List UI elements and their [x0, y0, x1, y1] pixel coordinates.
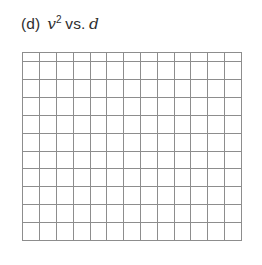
- grid-cell: [40, 53, 57, 62]
- grid-cell: [157, 62, 174, 80]
- grid-cell: [57, 133, 74, 151]
- grid-cell: [191, 53, 208, 62]
- grid-cell: [124, 62, 141, 80]
- grid-row: [23, 53, 242, 62]
- grid-cell: [40, 223, 57, 241]
- grid-cell: [191, 223, 208, 241]
- grid-cell: [90, 205, 107, 223]
- grid-cell: [73, 169, 90, 187]
- grid-cell: [90, 53, 107, 62]
- grid-cell: [174, 98, 191, 116]
- grid-cell: [23, 169, 40, 187]
- figure-label: (d): [21, 15, 40, 32]
- grid-cell: [191, 169, 208, 187]
- grid-cell: [57, 187, 74, 205]
- grid-cell: [107, 223, 124, 241]
- grid-row: [23, 80, 242, 98]
- relation-label: vs.: [65, 15, 85, 32]
- grid-cell: [40, 98, 57, 116]
- grid-cell: [191, 80, 208, 98]
- grid-cell: [174, 115, 191, 133]
- grid-cell: [174, 151, 191, 169]
- grid-cell: [107, 169, 124, 187]
- grid-cell: [124, 98, 141, 116]
- grid-row: [23, 133, 242, 151]
- grid-cell: [23, 205, 40, 223]
- grid-cell: [174, 205, 191, 223]
- grid-cell: [90, 133, 107, 151]
- grid-cell: [124, 187, 141, 205]
- grid-cell: [141, 169, 158, 187]
- grid-cell: [225, 151, 242, 169]
- grid-cell: [40, 151, 57, 169]
- grid-cell: [73, 151, 90, 169]
- figure-caption: (d)v2vs.d: [21, 13, 99, 35]
- grid-cell: [225, 223, 242, 241]
- grid-cell: [23, 133, 40, 151]
- x-axis-variable: d: [89, 15, 99, 33]
- grid-cell: [57, 169, 74, 187]
- grid-cell: [124, 53, 141, 62]
- grid-cell: [157, 53, 174, 62]
- grid-cell: [208, 98, 225, 116]
- grid-row: [23, 151, 242, 169]
- grid-cell: [191, 205, 208, 223]
- grid-cell: [191, 187, 208, 205]
- grid-cell: [141, 98, 158, 116]
- grid-cell: [191, 115, 208, 133]
- grid-cell: [90, 187, 107, 205]
- grid-cell: [225, 98, 242, 116]
- grid-cell: [208, 205, 225, 223]
- grid-cell: [124, 169, 141, 187]
- figure-panel: (d)v2vs.d: [0, 0, 262, 265]
- grid-cell: [157, 80, 174, 98]
- grid-cell: [208, 62, 225, 80]
- grid-cell: [141, 80, 158, 98]
- grid-cell: [57, 98, 74, 116]
- grid-cell: [174, 53, 191, 62]
- grid-cell: [174, 133, 191, 151]
- grid-cell: [90, 223, 107, 241]
- grid-cell: [23, 187, 40, 205]
- grid-cell: [225, 115, 242, 133]
- grid-cell: [141, 223, 158, 241]
- grid-cell: [191, 151, 208, 169]
- grid-cell: [40, 80, 57, 98]
- grid-cell: [40, 62, 57, 80]
- grid-cell: [107, 80, 124, 98]
- grid-cell: [90, 98, 107, 116]
- grid-cell: [124, 133, 141, 151]
- grid-cell: [40, 169, 57, 187]
- grid-cell: [208, 115, 225, 133]
- grid-cell: [225, 187, 242, 205]
- grid-cell: [57, 80, 74, 98]
- grid-cell: [208, 223, 225, 241]
- grid-cell: [73, 223, 90, 241]
- grid-row: [23, 205, 242, 223]
- grid-cell: [208, 151, 225, 169]
- grid-cell: [174, 223, 191, 241]
- grid-cell: [157, 98, 174, 116]
- grid-cell: [225, 80, 242, 98]
- grid-cell: [73, 80, 90, 98]
- grid-cell: [73, 62, 90, 80]
- grid-cell: [141, 62, 158, 80]
- grid-cell: [23, 115, 40, 133]
- grid-cell: [107, 133, 124, 151]
- grid-cell: [124, 205, 141, 223]
- grid-cell: [191, 98, 208, 116]
- grid-cell: [23, 80, 40, 98]
- grid-cell: [40, 133, 57, 151]
- grid-cell: [73, 187, 90, 205]
- grid-cell: [174, 187, 191, 205]
- grid-cell: [208, 53, 225, 62]
- grid-cell: [141, 53, 158, 62]
- grid-cell: [90, 115, 107, 133]
- grid-cell: [141, 115, 158, 133]
- grid-cell: [40, 187, 57, 205]
- grid-cell: [107, 62, 124, 80]
- grid-cell: [225, 205, 242, 223]
- grid-cell: [124, 151, 141, 169]
- grid-cell: [157, 187, 174, 205]
- grid-cell: [90, 80, 107, 98]
